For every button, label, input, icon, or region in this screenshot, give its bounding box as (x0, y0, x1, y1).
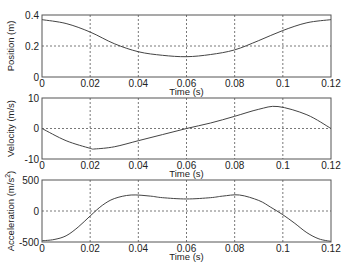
x-axis-label: Time (s) (169, 251, 203, 262)
x-tick-label: 0.04 (129, 160, 149, 171)
x-tick-label: 0.02 (80, 78, 100, 89)
x-tick-label: 0.02 (80, 243, 100, 254)
x-tick-label: 0.04 (129, 243, 149, 254)
y-axis-label: Acceleration (m/s2) (4, 171, 16, 251)
y-tick-label: 0 (33, 206, 39, 217)
y-tick-label: 10 (28, 93, 40, 104)
x-tick-label: 0.08 (225, 78, 245, 89)
x-axis-label: Time (s) (169, 86, 203, 97)
x-tick-label: 0.12 (321, 160, 341, 171)
y-axis-label: Position (m) (5, 21, 16, 72)
y-axis-label: Velocity (m/s) (5, 100, 16, 157)
grid (42, 180, 331, 242)
y-tick-label: -10 (25, 154, 40, 165)
x-tick-label: 0.04 (129, 78, 149, 89)
x-tick-label: 0.08 (225, 243, 245, 254)
y-tick-label: 0 (33, 123, 39, 134)
x-tick-label: 0.12 (321, 78, 341, 89)
x-tick-label: 0.08 (225, 160, 245, 171)
y-tick-label: 0.2 (25, 41, 39, 52)
x-axis-label: Time (s) (169, 168, 203, 179)
y-tick-label: -500 (19, 237, 39, 248)
x-tick-label: 0.1 (276, 78, 290, 89)
acceleration-subplot: 00.020.040.060.080.10.12-5000500Time (s)… (4, 171, 341, 262)
y-tick-label: 0 (33, 72, 39, 83)
x-tick-label: 0.1 (276, 243, 290, 254)
position-subplot: 00.020.040.060.080.10.1200.20.4Time (s)P… (5, 10, 341, 98)
x-tick-label: 0.1 (276, 160, 290, 171)
figure: 00.020.040.060.080.10.1200.20.4Time (s)P… (0, 0, 350, 272)
x-tick-label: 0 (39, 160, 45, 171)
y-tick-label: 0.4 (25, 10, 39, 21)
velocity-subplot: 00.020.040.060.080.10.12-10010Time (s)Ve… (5, 93, 341, 180)
x-tick-label: 0 (39, 78, 45, 89)
x-tick-label: 0.12 (321, 243, 341, 254)
y-tick-label: 500 (22, 175, 39, 186)
grid (42, 15, 331, 77)
x-tick-label: 0.02 (80, 160, 100, 171)
x-tick-label: 0 (39, 243, 45, 254)
